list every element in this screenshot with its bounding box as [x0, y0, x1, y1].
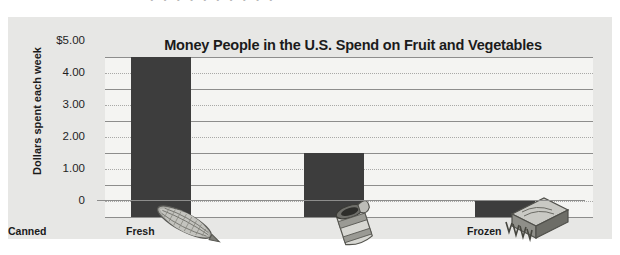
bar-fresh: [131, 57, 191, 217]
open-can-icon: [324, 197, 384, 251]
chart-title: Money People in the U.S. Spend on Fruit …: [108, 37, 598, 53]
y-tick-label-5: $5.00: [5, 34, 85, 46]
corn-cob-icon: [148, 200, 228, 248]
y-tick-label-4: 4.00: [5, 66, 85, 78]
y-tick-label-1: 1.00: [5, 162, 85, 174]
chart-figure: . . . . . . . . . . Money People in the …: [0, 0, 620, 255]
zero-baseline: [97, 200, 585, 201]
chart-panel: Money People in the U.S. Spend on Fruit …: [8, 17, 612, 239]
cropped-text-above: . . . . . . . . . .: [0, 0, 620, 8]
y-tick-label-2: 2.00: [5, 130, 85, 142]
x-category-label-frozen: Frozen: [467, 225, 501, 237]
y-tick-label-0: 0: [5, 194, 85, 206]
x-category-label-canned: Canned: [8, 225, 47, 237]
y-tick-label-3: 3.00: [5, 98, 85, 110]
